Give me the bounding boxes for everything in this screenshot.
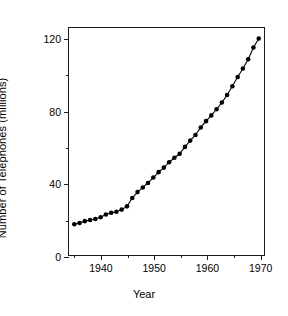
series-line: [74, 38, 258, 224]
data-point: [230, 84, 235, 89]
data-point: [135, 190, 140, 195]
x-tick-mark: [207, 255, 208, 260]
data-point: [93, 217, 98, 222]
data-point: [246, 57, 251, 62]
x-minor-tick-mark: [234, 255, 235, 258]
x-tick-mark: [154, 255, 155, 260]
data-point: [225, 93, 230, 98]
y-tick-label: 0: [55, 251, 61, 263]
y-tick-mark: [64, 257, 69, 258]
x-tick-label: 1940: [89, 262, 112, 274]
data-point: [241, 66, 246, 71]
data-point: [141, 185, 146, 190]
data-point: [114, 209, 119, 214]
data-point: [162, 165, 167, 170]
data-point: [251, 45, 256, 50]
data-point: [204, 119, 209, 124]
y-tick-mark: [64, 39, 69, 40]
data-point: [193, 133, 198, 138]
y-tick-mark: [64, 184, 69, 185]
y-tick-mark: [64, 112, 69, 113]
series-markers: [72, 36, 261, 226]
data-point: [188, 138, 193, 143]
data-point: [130, 196, 135, 201]
data-point: [146, 181, 151, 186]
data-series-svg: [69, 28, 264, 255]
y-tick-label: 40: [49, 178, 61, 190]
data-point: [88, 218, 93, 223]
x-minor-tick-mark: [128, 255, 129, 258]
y-tick-label: 80: [49, 106, 61, 118]
data-point: [151, 175, 156, 180]
x-minor-tick-mark: [181, 255, 182, 258]
data-point: [177, 151, 182, 156]
data-point: [156, 170, 161, 175]
y-tick-label: 120: [43, 33, 61, 45]
x-axis-title: Year: [0, 288, 288, 300]
data-point: [183, 145, 188, 150]
data-point: [77, 221, 82, 226]
x-tick-label: 1970: [249, 262, 272, 274]
data-point: [172, 155, 177, 160]
data-point: [214, 107, 219, 112]
data-point: [220, 100, 225, 105]
data-point: [256, 36, 261, 41]
x-minor-tick-mark: [74, 255, 75, 258]
y-minor-tick-mark: [66, 148, 69, 149]
data-point: [98, 215, 103, 220]
data-point: [235, 75, 240, 80]
y-axis-title-text: Number of Telephones (millions): [0, 78, 28, 239]
plot-area: 040801201940195019601970: [68, 27, 265, 256]
y-minor-tick-mark: [66, 221, 69, 222]
data-point: [83, 219, 88, 224]
data-point: [125, 204, 130, 209]
x-tick-label: 1960: [196, 262, 219, 274]
x-tick-label: 1950: [143, 262, 166, 274]
x-tick-mark: [101, 255, 102, 260]
y-axis-title: Number of Telephones (millions): [0, 0, 24, 316]
y-minor-tick-mark: [66, 75, 69, 76]
data-point: [198, 125, 203, 130]
x-tick-mark: [261, 255, 262, 260]
data-point: [104, 212, 109, 217]
data-point: [209, 113, 214, 118]
data-point: [119, 207, 124, 212]
data-point: [72, 222, 77, 227]
data-point: [167, 160, 172, 165]
data-point: [109, 211, 114, 216]
telephones-line-chart: Number of Telephones (millions) 04080120…: [0, 0, 288, 316]
x-axis-title-text: Year: [133, 288, 155, 300]
